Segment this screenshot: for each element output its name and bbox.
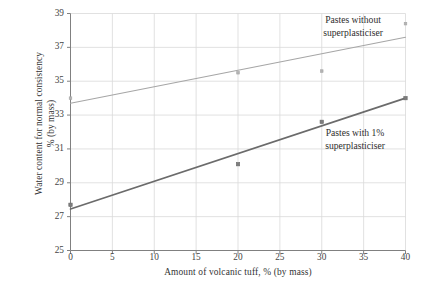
data-point-series-1 [237,71,240,74]
chart-container: 2527293133353739 0510152025303540 Water … [0,0,430,292]
x-tick-value: 5 [100,252,124,262]
data-point-series-1 [69,97,72,100]
annotation-pastes-with-superplasticiser: Pastes with 1% superplasticiser [294,127,416,152]
data-point-series-2 [236,162,239,165]
data-point-series-2 [320,120,323,123]
data-point-series-1 [320,70,323,73]
x-tick-value: 40 [394,252,418,262]
x-tick-value: 30 [310,252,334,262]
x-tick-value: 0 [59,252,83,262]
x-tick-value: 35 [352,252,376,262]
x-tick-value: 20 [226,252,250,262]
annotation-pastes-without-superplasticiser: Pastes without superplasticiser [291,14,415,39]
x-axis-title: Amount of volcanic tuff, % (by mass) [70,267,406,277]
x-tick-value: 25 [268,252,292,262]
data-point-series-2 [404,96,407,99]
x-tick-value: 15 [184,252,208,262]
data-point-series-2 [69,203,72,206]
y-axis-title: Water content for normal consistency % (… [34,8,57,240]
x-tick-value: 10 [142,252,166,262]
